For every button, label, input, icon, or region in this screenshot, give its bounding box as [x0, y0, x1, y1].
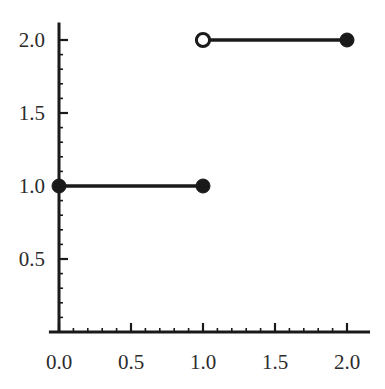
data-series: [59, 40, 347, 186]
x-tick-label: 0.5: [118, 352, 144, 373]
x-tick-label: 0.0: [46, 352, 72, 373]
x-tick-label: 1.0: [190, 352, 216, 373]
data-point-markers: [52, 33, 354, 193]
point-1-2-open: [196, 33, 209, 46]
x-tick-label: 1.5: [262, 352, 288, 373]
point-1-1-filled: [196, 179, 210, 193]
point-0-1-filled: [52, 179, 66, 193]
y-tick-label: 0.5: [19, 249, 45, 270]
y-tick-label: 1.5: [19, 103, 45, 124]
x-tick-label: 2.0: [334, 352, 360, 373]
point-2-2-filled: [340, 33, 354, 47]
axes: [49, 22, 370, 332]
y-tick-label: 1.0: [19, 176, 45, 197]
plot-canvas: [0, 0, 385, 389]
y-tick-label: 2.0: [19, 30, 45, 51]
step-function-plot: 0.00.51.01.52.0 0.51.01.52.0: [0, 0, 385, 389]
